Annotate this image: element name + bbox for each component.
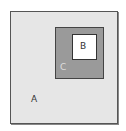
region-c-label: C <box>60 63 66 72</box>
region-b-label: B <box>80 42 86 51</box>
region-a-label: A <box>31 95 37 104</box>
diagram-canvas: A B C <box>0 0 126 131</box>
